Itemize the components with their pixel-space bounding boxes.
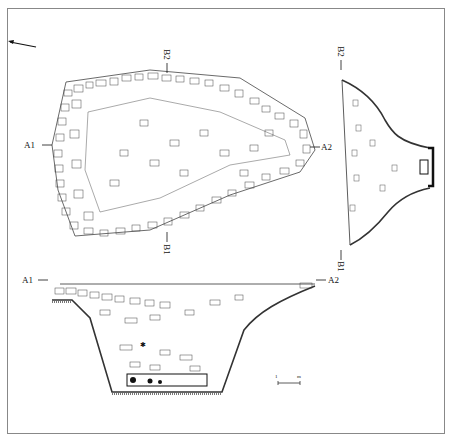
plan-label-b2: B2 — [162, 49, 171, 60]
scale-bar-left-tick: 1 — [275, 374, 278, 379]
section-label-a2: A2 — [328, 276, 339, 285]
section-label-b2: B2 — [336, 46, 345, 57]
scale-bar — [278, 381, 300, 385]
plan-label-a1: A1 — [24, 141, 35, 150]
section-b1-b2 — [342, 80, 433, 245]
plan-label-a2: A2 — [321, 143, 332, 152]
plan-label-b1: B1 — [162, 244, 171, 255]
north-arrow-icon — [8, 40, 36, 47]
svg-text:✱: ✱ — [140, 341, 146, 349]
excavation-drawing: ✱ — [0, 0, 449, 443]
section-label-a1: A1 — [22, 276, 33, 285]
plan-view — [52, 70, 315, 236]
scale-bar-right-tick: m — [297, 374, 301, 379]
section-label-b1: B1 — [336, 261, 345, 272]
